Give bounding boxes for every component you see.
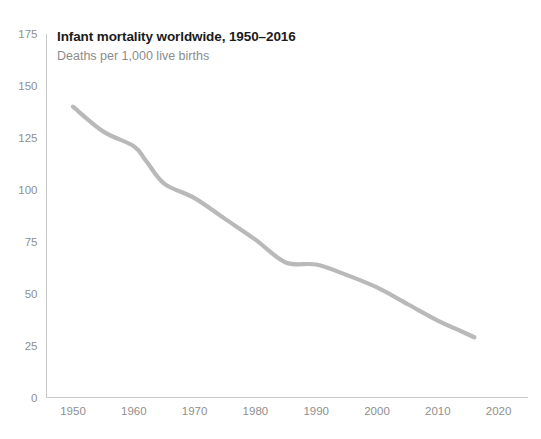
y-tick-label: 25 — [25, 340, 38, 352]
y-tick-label: 100 — [18, 184, 37, 196]
y-tick-label: 50 — [25, 288, 38, 300]
y-tick-label: 0 — [31, 392, 37, 404]
y-tick-label: 125 — [18, 132, 37, 144]
series-line-infant-mortality — [73, 107, 474, 338]
y-axis-tick-labels: 0255075100125150175 — [18, 28, 37, 404]
x-tick-label: 1960 — [121, 405, 147, 417]
x-tick-label: 2010 — [425, 405, 451, 417]
plot-area — [73, 107, 474, 338]
x-tick-label: 2000 — [364, 405, 390, 417]
x-axis: 19501960197019801990200020102020 — [47, 398, 529, 417]
y-tick-label: 150 — [18, 80, 37, 92]
x-tick-label: 1990 — [303, 405, 329, 417]
chart-canvas: 0255075100125150175 19501960197019801990… — [0, 0, 541, 439]
x-tick-label: 1980 — [243, 405, 269, 417]
y-tick-label: 175 — [18, 28, 37, 40]
y-tick-label: 75 — [25, 236, 38, 248]
infant-mortality-chart: Infant mortality worldwide, 1950–2016 De… — [0, 0, 541, 439]
y-axis: 0255075100125150175 — [18, 28, 46, 404]
x-tick-label: 1970 — [182, 405, 208, 417]
x-tick-label: 1950 — [60, 405, 86, 417]
x-tick-label: 2020 — [486, 405, 512, 417]
x-axis-tick-labels: 19501960197019801990200020102020 — [60, 405, 511, 417]
